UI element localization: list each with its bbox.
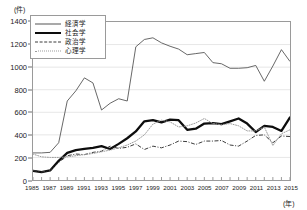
x-tick-label-1991: 1991 (77, 184, 91, 191)
y-tick-label-200: 200 (0, 154, 27, 163)
legend-label-psychology: 心理学 (61, 46, 86, 55)
x-tick-label-1985: 1985 (25, 184, 39, 191)
x-tick-label-2011: 2011 (250, 184, 263, 191)
y-tick-label-400: 400 (0, 131, 27, 140)
x-tick-label-2015: 2015 (284, 184, 298, 191)
legend-label-political-science: 政治学 (61, 37, 86, 46)
y-tick-label-800: 800 (0, 85, 27, 94)
x-tick-label-1993: 1993 (94, 184, 108, 191)
y-tick-label-600: 600 (0, 108, 27, 117)
y-axis-unit-label: (件) (14, 4, 25, 14)
x-tick-label-1989: 1989 (60, 184, 74, 191)
chart-legend: 経済学 社会学 政治学 心理学 (30, 15, 106, 59)
y-tick-label-1000: 1000 (0, 62, 27, 71)
legend-item-psychology: 心理学 (35, 46, 101, 55)
series-line-2 (33, 117, 290, 172)
x-tick-label-2005: 2005 (198, 184, 212, 191)
y-tick-label-0: 0 (0, 177, 27, 186)
legend-line-political-science-icon (35, 37, 61, 46)
x-tick-label-2013: 2013 (267, 184, 281, 191)
y-tick-label-1200: 1200 (0, 39, 27, 48)
x-tick-label-2007: 2007 (215, 184, 229, 191)
legend-item-sociology: 社会学 (35, 28, 101, 37)
line-chart: (件) 0200400600800100012001400 1985198719… (0, 0, 307, 210)
series-line-3 (33, 135, 290, 172)
legend-label-sociology: 社会学 (61, 28, 86, 37)
legend-label-economics: 経済学 (61, 19, 86, 28)
x-tick-label-2001: 2001 (163, 184, 177, 191)
y-tick-label-1400: 1400 (0, 17, 27, 26)
legend-item-economics: 経済学 (35, 19, 101, 28)
x-tick-label-2009: 2009 (232, 184, 246, 191)
x-tick-label-2003: 2003 (181, 184, 195, 191)
legend-line-psychology-icon (35, 46, 61, 55)
legend-item-political-science: 政治学 (35, 37, 101, 46)
x-axis-unit-label: (年) (283, 198, 295, 208)
x-tick-label-1987: 1987 (42, 184, 56, 191)
x-tick-label-1995: 1995 (111, 184, 125, 191)
x-tick-label-1997: 1997 (129, 184, 143, 191)
legend-line-economics-icon (35, 19, 61, 28)
legend-line-sociology-icon (35, 28, 61, 37)
x-tick-label-1999: 1999 (146, 184, 160, 191)
